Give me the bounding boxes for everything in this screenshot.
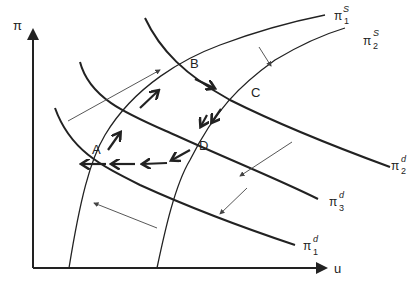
label-demand-3: π d 3: [329, 190, 345, 213]
supply-curve-2: [157, 28, 345, 268]
point-d-label: D: [199, 138, 208, 153]
demand-curve-3: [80, 62, 318, 199]
demand-curve-1: [55, 108, 295, 245]
svg-text:π: π: [329, 195, 337, 209]
path-arrow-a-up-1: [108, 133, 120, 150]
svg-text:d: d: [313, 234, 319, 244]
svg-text:d: d: [339, 190, 345, 200]
demand-curve-2: [145, 18, 390, 167]
svg-text:S: S: [343, 4, 349, 14]
axes: π u: [13, 18, 341, 276]
shift-arrow-down-1: [259, 47, 271, 66]
shift-arrow-down-left-1: [240, 142, 292, 176]
shift-arrow-down-left-2: [220, 188, 247, 214]
curve-labels: π S 1 π S 2 π d 2 π d 3 π d 1: [303, 4, 407, 257]
path-arrow-d-a-1: [172, 150, 190, 160]
path-arrow-c-d-1: [212, 109, 221, 122]
point-a-label: A: [92, 142, 101, 157]
path-arrow-d-a-2: [143, 163, 167, 164]
svg-text:π: π: [363, 34, 371, 48]
path-arrow-c-d-2: [201, 115, 207, 126]
label-supply-1: π S 1: [334, 4, 349, 26]
point-b-label: B: [190, 56, 199, 71]
svg-text:π: π: [391, 159, 399, 173]
label-demand-1: π d 1: [303, 234, 319, 257]
label-demand-2: π d 2: [391, 154, 407, 176]
point-c-label: C: [251, 85, 260, 100]
svg-text:2: 2: [401, 166, 406, 176]
y-axis-label: π: [13, 18, 22, 33]
svg-text:1: 1: [344, 16, 349, 26]
label-supply-2: π S 2: [363, 28, 379, 51]
path-arrow-a-up-2: [140, 91, 158, 108]
path-arrow-b-c: [195, 79, 214, 88]
svg-text:1: 1: [313, 247, 318, 257]
svg-text:3: 3: [339, 203, 344, 213]
svg-text:d: d: [401, 154, 407, 164]
x-axis-label: u: [334, 261, 341, 276]
phillips-curve-diagram: π u A B C D π: [0, 0, 418, 281]
shift-arrow-up-right: [68, 70, 160, 121]
shift-arrow-left: [94, 203, 157, 228]
svg-text:2: 2: [373, 41, 378, 51]
svg-text:π: π: [303, 239, 311, 253]
svg-text:π: π: [334, 9, 342, 23]
svg-text:S: S: [373, 28, 379, 38]
